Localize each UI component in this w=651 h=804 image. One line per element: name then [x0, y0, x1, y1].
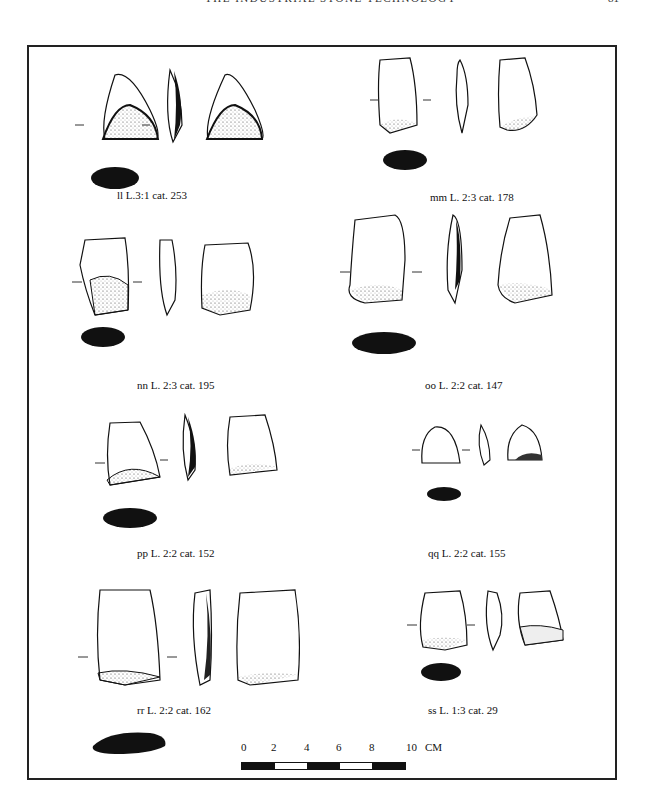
- artifact-label-mm: mm L. 2:3 cat. 178: [430, 191, 514, 203]
- artifact-mm-drawing: [365, 55, 575, 175]
- scale-bar: [241, 762, 406, 770]
- artifact-label-rr: rr L. 2:2 cat. 162: [137, 704, 211, 716]
- artifact-label-oo: oo L. 2:2 cat. 147: [425, 379, 503, 391]
- running-head: THE INDUSTRIAL STONE TECHNOLOGY: [205, 0, 457, 4]
- artifact-label-ss: ss L. 1:3 cat. 29: [428, 704, 498, 716]
- artifact-label-qq: qq L. 2:2 cat. 155: [428, 547, 506, 559]
- artifact-rr-drawing: [70, 585, 300, 695]
- artifact-pp-drawing: [85, 405, 295, 530]
- artifact-label-pp: pp L. 2:2 cat. 152: [137, 547, 215, 559]
- scale-tick-10: 10: [406, 741, 417, 753]
- page-number: 81: [608, 0, 619, 4]
- artifact-nn-drawing: [70, 230, 290, 350]
- scale-unit: CM: [425, 741, 442, 753]
- scale-tick-8: 8: [369, 741, 375, 753]
- artifact-oo-drawing: [340, 210, 580, 360]
- scale-tick-4: 4: [304, 741, 310, 753]
- artifact-ll-drawing: [70, 65, 280, 200]
- scale-tick-6: 6: [336, 741, 342, 753]
- artifact-qq-drawing: [410, 415, 590, 505]
- artifact-label-ll: ll L.3:1 cat. 253: [117, 189, 187, 201]
- artifact-label-nn: nn L. 2:3 cat. 195: [137, 379, 215, 391]
- artifact-rr-section: [90, 728, 170, 756]
- scale-tick-2: 2: [271, 741, 277, 753]
- scale-tick-0: 0: [241, 741, 247, 753]
- artifact-ss-drawing: [405, 585, 575, 685]
